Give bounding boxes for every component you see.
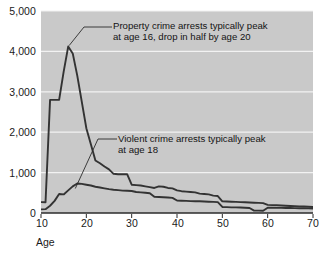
y-tick-label-5000: 5,000 (0, 5, 36, 17)
violent-annotation-line-2: at age 18 (118, 144, 266, 155)
x-tick-label-50: 50 (209, 217, 237, 229)
y-tick-label-2000: 2,000 (0, 126, 36, 138)
violent-annotation: Violent crime arrests typically peak at … (118, 133, 266, 156)
x-tick-label-70: 70 (299, 217, 324, 229)
y-tick-label-3000: 3,000 (0, 86, 36, 98)
y-tick-label-1000: 1,000 (0, 167, 36, 179)
x-axis-title: Age (36, 236, 55, 248)
property-annotation-line-1: Property crime arrests typically peak (113, 20, 268, 31)
x-tick-label-10: 10 (28, 217, 56, 229)
x-tick-label-40: 40 (164, 217, 192, 229)
property-annotation-line-2: at age 16, drop in half by age 20 (113, 31, 268, 42)
property-annotation: Property crime arrests typically peak at… (113, 20, 268, 43)
y-tick-label-4000: 4,000 (0, 45, 36, 57)
crime-arrests-by-age-chart: 5,000 4,000 3,000 2,000 1,000 0 10 20 30… (0, 0, 324, 254)
x-tick-label-20: 20 (73, 217, 101, 229)
x-tick-label-30: 30 (118, 217, 146, 229)
x-tick-label-60: 60 (254, 217, 282, 229)
violent-annotation-line-1: Violent crime arrests typically peak (118, 133, 266, 144)
